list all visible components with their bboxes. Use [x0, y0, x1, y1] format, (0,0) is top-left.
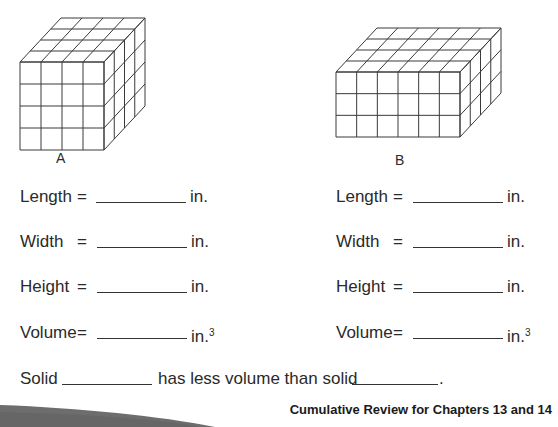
unit-cubed-label: in.3 [507, 323, 531, 347]
unit-label: in. [191, 277, 209, 297]
height-answer-b[interactable] [413, 292, 503, 293]
comparison-suffix: . [439, 369, 444, 389]
comparison-blank-1[interactable] [62, 384, 152, 385]
width-row-b: Width = in. [336, 232, 379, 252]
length-label: Length [336, 187, 388, 207]
unit-label: in. [507, 277, 525, 297]
volume-answer-b[interactable] [413, 338, 503, 339]
height-label: Height [336, 277, 385, 297]
footer-chapter-label: Cumulative Review for Chapters 13 and 14 [290, 402, 552, 417]
cube-figure-b [0, 0, 558, 427]
equals-sign: = [77, 277, 87, 297]
width-answer-a[interactable] [97, 247, 187, 248]
volume-label: Volume [336, 323, 393, 343]
unit-label: in. [507, 232, 525, 252]
length-row-a: Length = in. [20, 187, 72, 207]
volume-answer-a[interactable] [97, 338, 187, 339]
width-answer-b[interactable] [413, 247, 503, 248]
caption-a: A [56, 150, 65, 166]
exponent: 3 [209, 327, 215, 338]
unit-label: in. [190, 187, 208, 207]
comparison-prefix: Solid [20, 369, 58, 389]
width-label: Width [336, 232, 379, 252]
length-row-b: Length = in. [336, 187, 388, 207]
height-label: Height [20, 277, 69, 297]
equals-sign: = [77, 232, 87, 252]
width-label: Width [20, 232, 63, 252]
height-answer-a[interactable] [97, 292, 187, 293]
equals-sign: = [77, 187, 87, 207]
length-label: Length [20, 187, 72, 207]
unit-label: in. [507, 187, 525, 207]
height-row-b: Height = in. [336, 277, 385, 297]
comparison-blank-2[interactable] [352, 384, 438, 385]
exponent: 3 [525, 327, 531, 338]
equals-sign: = [77, 323, 87, 343]
unit-text: in. [507, 327, 525, 346]
volume-row-a: Volume = in.3 [20, 323, 77, 343]
comparison-middle: has less volume than solid [158, 369, 357, 389]
unit-label: in. [191, 232, 209, 252]
height-row-a: Height = in. [20, 277, 69, 297]
length-answer-b[interactable] [413, 202, 503, 203]
volume-row-b: Volume = in.3 [336, 323, 393, 343]
equals-sign: = [393, 277, 403, 297]
width-row-a: Width = in. [20, 232, 63, 252]
unit-cubed-label: in.3 [191, 323, 215, 347]
equals-sign: = [393, 323, 403, 343]
equals-sign: = [393, 232, 403, 252]
unit-text: in. [191, 327, 209, 346]
equals-sign: = [393, 187, 403, 207]
length-answer-a[interactable] [96, 202, 186, 203]
volume-label: Volume [20, 323, 77, 343]
caption-b: B [395, 152, 404, 168]
